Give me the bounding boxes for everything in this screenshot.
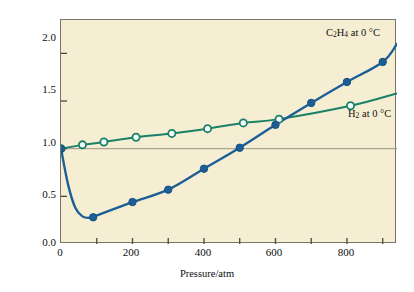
- compression-factor-figure: Compression Factor, Z=PV/RT 0.0 0.5 1.0 …: [0, 0, 414, 292]
- x-axis-title: Pressure/atm: [0, 268, 414, 279]
- data-point-h2: [79, 141, 86, 148]
- data-point-c2h4: [272, 121, 279, 128]
- h2-prefix: H: [348, 108, 356, 119]
- series-line-h2: [61, 93, 397, 148]
- x-tick-1: 200: [111, 246, 151, 258]
- y-tick-3: 1.5: [22, 84, 56, 95]
- series-markers-h2: [61, 102, 354, 152]
- data-point-c2h4: [343, 78, 350, 85]
- data-point-c2h4: [89, 214, 96, 221]
- y-tick-1: 0.5: [22, 189, 56, 200]
- data-point-h2: [204, 125, 211, 132]
- y-tick-2: 1.0: [22, 137, 56, 148]
- series-line-c2h4: [61, 44, 397, 218]
- data-point-c2h4: [165, 186, 172, 193]
- series-label-h2: H2 at 0 °C: [348, 108, 391, 120]
- data-point-c2h4: [379, 58, 386, 65]
- x-tick-3: 600: [254, 246, 294, 258]
- c2h4-suffix: at 0 °C: [348, 27, 380, 38]
- data-point-h2: [168, 130, 175, 137]
- x-axis-tick-labels: 0 200 400 600 800: [0, 246, 414, 264]
- series-markers-c2h4: [61, 58, 386, 221]
- data-point-c2h4: [308, 99, 315, 106]
- data-point-h2: [100, 138, 107, 145]
- chart-canvas: [61, 20, 397, 244]
- c2h4-prefix: C: [326, 27, 333, 38]
- y-axis-title: Compression Factor, Z=PV/RT: [0, 0, 10, 28]
- h2-suffix: at 0 °C: [359, 108, 391, 119]
- x-tick-2: 400: [183, 246, 223, 258]
- data-point-h2: [132, 134, 139, 141]
- x-tick-4: 800: [326, 246, 366, 258]
- data-point-c2h4: [200, 165, 207, 172]
- plot-area: [60, 19, 396, 243]
- series-label-c2h4: C2H4 at 0 °C: [326, 27, 380, 39]
- x-tick-0: 0: [40, 246, 80, 258]
- data-point-h2: [240, 119, 247, 126]
- y-tick-4: 2.0: [22, 32, 56, 43]
- data-point-c2h4: [61, 145, 65, 152]
- data-point-c2h4: [236, 144, 243, 151]
- x-axis-ticks: [97, 238, 383, 244]
- data-point-c2h4: [129, 198, 136, 205]
